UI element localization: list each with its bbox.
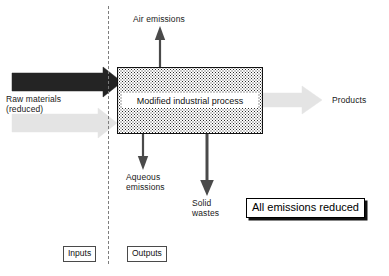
process-box-label: Modified industrial process <box>137 96 244 106</box>
solid-wastes-arrow <box>200 134 214 196</box>
raw-materials-label: Raw materials (reduced) <box>6 94 61 114</box>
process-box-label-band: Modified industrial process <box>122 93 258 108</box>
products-label: Products <box>332 95 366 105</box>
solid-wastes-label: Solid wastes <box>192 198 219 218</box>
air-emissions-arrow <box>155 26 165 67</box>
inputs-outputs-divider <box>108 6 109 264</box>
process-flow-diagram: Modified industrial process Air emission… <box>0 0 389 276</box>
all-emissions-reduced-callout: All emissions reduced <box>246 198 365 218</box>
legend-inputs: Inputs <box>63 246 96 262</box>
air-emissions-label: Air emissions <box>133 14 185 24</box>
products-arrow <box>262 86 322 114</box>
legend-outputs: Outputs <box>127 246 167 262</box>
aqueous-emissions-label: Aqueous emissions <box>126 172 165 192</box>
aqueous-emissions-arrow <box>138 134 148 170</box>
diagram-vector-layer <box>0 0 389 276</box>
raw-materials-arrow <box>12 67 122 97</box>
